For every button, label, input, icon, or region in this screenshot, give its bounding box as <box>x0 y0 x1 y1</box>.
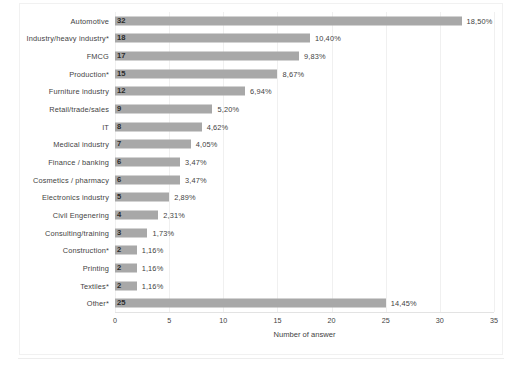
page-divider-rule <box>18 358 504 359</box>
bar-value-label: 2 <box>117 246 121 254</box>
category-label: Industry/heavy industry* <box>27 34 109 43</box>
x-tick-label: 20 <box>328 316 336 325</box>
bar-percent-label: 1,16% <box>142 281 164 290</box>
bar-row: Printing21,16% <box>115 259 494 277</box>
bar-row: Construction*21,16% <box>115 241 494 259</box>
category-label: Cosmetics / pharmacy <box>33 175 109 184</box>
category-label: Construction* <box>63 246 109 255</box>
bar-value-label: 6 <box>117 176 121 184</box>
bar-row: Retail/trade/sales95,20% <box>115 100 494 118</box>
x-tick-label: 35 <box>490 316 498 325</box>
bar-percent-label: 1,16% <box>142 246 164 255</box>
bar-value-label: 25 <box>117 299 125 307</box>
bar-value-label: 5 <box>117 193 121 201</box>
bar-percent-label: 4,05% <box>196 140 218 149</box>
bar-percent-label: 9,83% <box>304 52 326 61</box>
bar[interactable] <box>115 122 202 131</box>
bar[interactable] <box>115 299 386 308</box>
category-label: Electronics industry <box>42 193 109 202</box>
bar-percent-label: 2,31% <box>163 210 185 219</box>
bar-value-label: 7 <box>117 141 121 149</box>
bar-percent-label: 1,16% <box>142 263 164 272</box>
plot-area: Automotive3218,50%Industry/heavy industr… <box>115 12 494 312</box>
bar-value-label: 3 <box>117 229 121 237</box>
bar-row: Cosmetics / pharmacy63,47% <box>115 171 494 189</box>
bar[interactable] <box>115 105 212 114</box>
x-axis-title: Number of answer <box>115 330 494 339</box>
bar-row: Industry/heavy industry*1810,40% <box>115 30 494 48</box>
category-label: Automotive <box>71 16 109 25</box>
bar-value-label: 4 <box>117 211 121 219</box>
bar[interactable] <box>115 140 191 149</box>
bar-row: FMCG179,83% <box>115 47 494 65</box>
category-label: Printing <box>83 263 109 272</box>
bar-row: Civil Engenering42,31% <box>115 206 494 224</box>
bar-row: Automotive3218,50% <box>115 12 494 30</box>
category-label: IT <box>102 122 109 131</box>
bar-value-label: 9 <box>117 105 121 113</box>
bar-value-label: 2 <box>117 282 121 290</box>
x-tick-label: 5 <box>167 316 171 325</box>
bar[interactable] <box>115 210 158 219</box>
bar[interactable] <box>115 69 277 78</box>
category-label: Finance / banking <box>48 157 109 166</box>
x-tick-label: 25 <box>382 316 390 325</box>
bar-value-label: 6 <box>117 158 121 166</box>
bar-chart: Automotive3218,50%Industry/heavy industr… <box>0 0 524 374</box>
bar-percent-label: 4,62% <box>207 122 229 131</box>
bar-percent-label: 1,73% <box>152 228 174 237</box>
bar[interactable] <box>115 87 245 96</box>
category-label: FMCG <box>87 52 109 61</box>
bar-row: Other*2514,45% <box>115 294 494 312</box>
bar[interactable] <box>115 193 169 202</box>
bar-percent-label: 3,47% <box>185 175 207 184</box>
category-label: Production* <box>69 69 109 78</box>
x-tick-label: 15 <box>273 316 281 325</box>
bar-row: IT84,62% <box>115 118 494 136</box>
bar-percent-label: 14,45% <box>391 299 417 308</box>
category-label: Retail/trade/sales <box>49 105 109 114</box>
bar[interactable] <box>115 16 462 25</box>
bar-percent-label: 3,47% <box>185 157 207 166</box>
bar-value-label: 18 <box>117 35 125 43</box>
bar-percent-label: 10,40% <box>315 34 341 43</box>
x-tick-label: 0 <box>113 316 117 325</box>
bar-value-label: 2 <box>117 264 121 272</box>
bar-row: Finance / banking63,47% <box>115 153 494 171</box>
bar-percent-label: 2,89% <box>174 193 196 202</box>
category-label: Consulting/training <box>45 228 109 237</box>
bar-row: Medical industry74,05% <box>115 136 494 154</box>
bar-row: Textiles*21,16% <box>115 277 494 295</box>
category-label: Furniture industry <box>49 87 109 96</box>
bar[interactable] <box>115 157 180 166</box>
bar-percent-label: 5,20% <box>217 105 239 114</box>
bar-value-label: 15 <box>117 70 125 78</box>
bar-row: Production*158,67% <box>115 65 494 83</box>
category-label: Textiles* <box>80 281 109 290</box>
bar-percent-label: 6,94% <box>250 87 272 96</box>
category-label: Medical industry <box>53 140 109 149</box>
x-tick-label: 10 <box>219 316 227 325</box>
bar-value-label: 17 <box>117 52 125 60</box>
bar-percent-label: 8,67% <box>282 69 304 78</box>
bar-row: Consulting/training31,73% <box>115 224 494 242</box>
bar[interactable] <box>115 52 299 61</box>
bar[interactable] <box>115 175 180 184</box>
bar-value-label: 12 <box>117 88 125 96</box>
bar-value-label: 8 <box>117 123 121 131</box>
x-axis-line <box>115 312 494 313</box>
bar-row: Furniture industry126,94% <box>115 83 494 101</box>
bar-row: Electronics industry52,89% <box>115 188 494 206</box>
gridline <box>494 12 495 312</box>
bar[interactable] <box>115 34 310 43</box>
bar-value-label: 32 <box>117 17 125 25</box>
category-label: Civil Engenering <box>53 210 109 219</box>
x-tick-label: 30 <box>436 316 444 325</box>
category-label: Other* <box>87 299 109 308</box>
bar-percent-label: 18,50% <box>467 16 493 25</box>
